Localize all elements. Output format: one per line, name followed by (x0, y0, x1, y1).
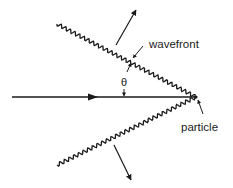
wavefront-label: wavefront (148, 38, 200, 50)
lower-wavefront (57, 96, 195, 166)
wavefront-pointer-arrow (133, 46, 143, 58)
particle-label: particle (181, 121, 218, 133)
particle-pointer-arrow (198, 100, 203, 114)
lower-propagation-arrow (114, 145, 131, 180)
angle-theta-label: θ (121, 76, 127, 88)
angle-arrow-up (127, 63, 131, 72)
diagram-svg: wavefront θ particle (0, 0, 233, 188)
direction-arrowhead-icon (88, 94, 98, 101)
upper-propagation-arrow (116, 10, 136, 45)
particle-dot (194, 95, 197, 98)
cherenkov-wavefront-diagram: wavefront θ particle (0, 0, 233, 188)
particle-path-line (12, 94, 196, 101)
